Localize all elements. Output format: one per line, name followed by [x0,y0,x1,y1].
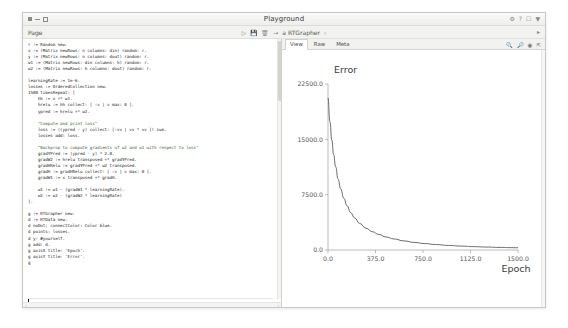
window-body: r := Random new.x := (Matrix newRows: n … [23,39,545,307]
x-tick-label: 1500.0 [507,255,529,262]
scroll-right-icon[interactable]: › [275,303,281,308]
x-axis-title: Epoch [501,263,530,274]
target-icon[interactable]: ◉ [528,42,533,48]
x-tick-label: 375.0 [367,255,385,262]
x-tick-label: 1125.0 [460,255,482,262]
y-tick-label: 7500.0 [301,191,323,198]
playground-toolbar: Page ▷ 💾 🗑 → a RTGrapher › ▸ [23,26,545,39]
tab-meta-label: Meta [336,41,349,47]
arrow-icon[interactable]: → [273,29,278,36]
error-vs-epoch-chart: Error0.07500.015000.022500.00.0375.0750.… [282,50,544,307]
scroll-left-icon[interactable]: ‹ [23,303,29,308]
tab-meta[interactable]: Meta [331,39,354,49]
toolbar-right-group: ▸ [537,29,545,35]
run-icon[interactable]: ▷ [242,29,247,36]
window-titlebar: Playground ⚙ ? ☐ ▼ [23,13,545,26]
code-line: g [28,260,277,266]
page-label: Page [23,29,43,36]
code-editor-pane[interactable]: r := Random new.x := (Matrix newRows: n … [23,39,282,307]
playground-window: Playground ⚙ ? ☐ ▼ Page ▷ 💾 🗑 → a RTGrap… [22,12,546,308]
y-tick-label: 22500.0 [297,80,323,87]
inspector-icon-group: 🔍 🔎 ◉ ⇱ [506,42,545,49]
breadcrumb-object-label[interactable]: a RTGrapher [282,29,320,36]
tab-raw[interactable]: Raw [309,39,330,49]
code-horizontal-scrollbar[interactable]: ‹ › [23,302,281,307]
trash-icon[interactable]: 🗑 [261,29,269,36]
inspector-pane: View Raw Meta 🔍 🔎 ◉ ⇱ [282,39,545,307]
y-tick-label: 15000.0 [297,136,323,143]
code-text[interactable]: r := Random new.x := (Matrix newRows: n … [28,42,277,266]
zoom-in-icon[interactable]: 🔎 [517,42,524,48]
loss-curve [328,98,518,248]
x-tick-label: 0.0 [323,255,333,262]
save-icon[interactable]: 💾 [250,29,257,36]
y-tick-label: 0.0 [313,246,323,253]
window-title: Playground [23,15,545,23]
tab-view[interactable]: View [285,39,308,50]
code-vertical-scrollbar[interactable] [277,39,281,299]
inspector-vertical-scrollbar[interactable] [541,50,545,307]
chevron-right-icon[interactable]: › [324,29,326,36]
zoom-out-icon[interactable]: 🔍 [506,42,513,48]
breadcrumb: ▷ 💾 🗑 → a RTGrapher › [242,29,327,36]
expand-icon[interactable]: ⇱ [536,42,541,48]
chart-title: Error [334,64,357,75]
screenshot-root: Playground ⚙ ? ☐ ▼ Page ▷ 💾 🗑 → a RTGrap… [0,0,568,328]
chart-canvas[interactable]: Error0.07500.015000.022500.00.0375.0750.… [282,50,545,307]
tab-raw-label: Raw [314,41,325,47]
tab-view-label: View [290,41,303,47]
x-tick-label: 750.0 [414,255,432,262]
page-menu-icon[interactable]: ▸ [537,29,540,35]
inspector-tabbar: View Raw Meta 🔍 🔎 ◉ ⇱ [282,39,545,50]
code-scroll-region[interactable]: r := Random new.x := (Matrix newRows: n … [23,39,281,307]
